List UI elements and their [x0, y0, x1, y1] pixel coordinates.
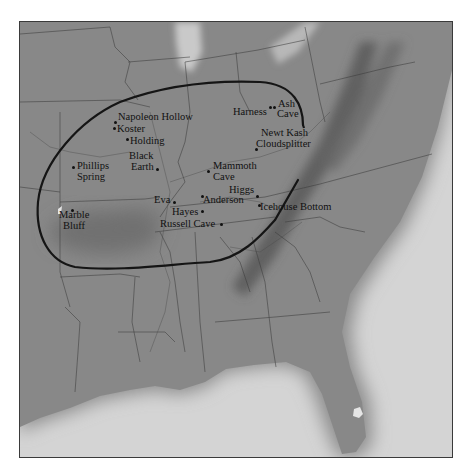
map-canvas — [20, 22, 452, 457]
site-label-cloudsplitter: Cloudsplitter — [256, 139, 311, 149]
site-label-black-earth-line1: Black — [129, 151, 154, 161]
site-label-hayes: Hayes — [172, 207, 198, 217]
map-frame: Napoleon Hollow Koster Holding Black Ear… — [19, 21, 453, 458]
site-label-koster: Koster — [117, 124, 145, 134]
site-label-eva: Eva — [154, 195, 170, 205]
site-label-ash-cave-line2: Cave — [277, 109, 299, 119]
site-dot-holding — [126, 138, 129, 141]
site-dot-harness — [269, 106, 272, 109]
site-dot-ash-cave — [273, 106, 276, 109]
site-label-newt-kash: Newt Kash — [261, 128, 308, 138]
site-dot-black-earth — [156, 168, 159, 171]
site-label-marble-bluff-line1: Marble — [59, 210, 89, 220]
site-label-higgs: Higgs — [229, 185, 254, 195]
site-label-mammoth-cave-line2: Cave — [213, 172, 235, 182]
site-label-mammoth-cave-line1: Mammoth — [213, 161, 257, 171]
site-dot-phillips-spring — [72, 166, 75, 169]
site-dot-hayes — [201, 210, 204, 213]
site-label-holding: Holding — [130, 136, 164, 146]
site-dot-mammoth-cave — [207, 170, 210, 173]
site-dot-koster — [113, 127, 116, 130]
site-label-anderson: Anderson — [203, 195, 244, 205]
site-label-napoleon-hollow: Napoleon Hollow — [118, 112, 193, 122]
site-dot-eva — [173, 201, 176, 204]
site-dot-higgs — [256, 195, 259, 198]
site-dot-russell-cave — [220, 223, 223, 226]
site-label-phillips-spring-line1: Phillips — [77, 161, 109, 171]
site-label-black-earth-line2: Earth — [131, 162, 154, 172]
site-label-phillips-spring-line2: Spring — [77, 172, 105, 182]
site-label-russell-cave: Russell Cave — [160, 219, 215, 229]
site-label-marble-bluff-line2: Bluff — [63, 221, 85, 231]
site-label-harness: Harness — [233, 107, 267, 117]
site-label-icehouse-bottom: Icehouse Bottom — [260, 202, 331, 212]
